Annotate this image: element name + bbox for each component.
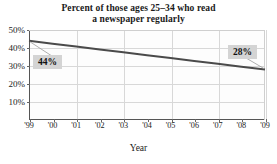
chart-container: Percent of those ages 25–34 who read a n…: [0, 0, 277, 164]
y-axis-tick-label: 50%: [9, 25, 26, 35]
x-axis-tick-label: '04: [142, 121, 152, 130]
chart-title-line-1: Percent of those ages 25–34 who read: [61, 3, 215, 13]
y-axis-tick-label: 40%: [9, 43, 26, 53]
x-axis-tick-label: '02: [95, 121, 105, 130]
x-axis-tick-label: '99: [24, 121, 34, 130]
x-axis-title: Year: [0, 143, 277, 153]
end-value-callout: 28%: [228, 45, 257, 59]
x-axis-tick-label: '00: [48, 121, 58, 130]
x-axis-labels: '99'00'01'02'03'04'05'06'07'08'09: [29, 121, 265, 134]
data-line-series: [29, 30, 265, 120]
x-axis-tick-label: '06: [189, 121, 199, 130]
x-axis-tick-label: '05: [166, 121, 176, 130]
y-axis-tick-label: 10%: [9, 97, 26, 107]
start-value-callout: 44%: [33, 55, 62, 69]
chart-title: Percent of those ages 25–34 who read a n…: [0, 3, 277, 25]
x-axis-tick-label: '09: [260, 121, 270, 130]
y-axis-tick-label: 30%: [9, 61, 26, 71]
x-axis-tick-label: '03: [119, 121, 129, 130]
x-axis-tick-label: '01: [71, 121, 81, 130]
gridline-vertical: [266, 30, 267, 119]
x-axis-tick-label: '07: [213, 121, 223, 130]
chart-title-line-2: a newspaper regularly: [0, 14, 277, 25]
y-axis-labels: 10%20%30%40%50%: [0, 30, 27, 120]
x-axis-tick-label: '08: [237, 121, 247, 130]
y-axis-tick-label: 20%: [9, 79, 26, 89]
